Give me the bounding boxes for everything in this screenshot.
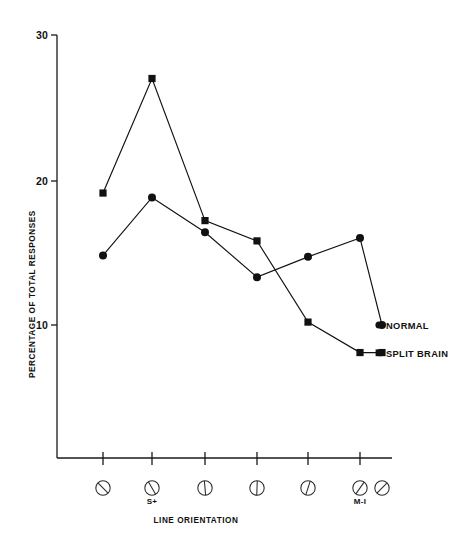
data-point — [356, 234, 364, 242]
circle-slash-120-icon — [145, 481, 159, 495]
chart-figure: 30 20 10 PERCENTAGE OF TOTAL RESPONSES L… — [0, 0, 462, 548]
legend-label-normal: NORMAL — [386, 321, 429, 331]
series-line-split-brain — [103, 79, 382, 353]
y-tick-label-20: 20 — [36, 175, 48, 187]
legend-group: NORMAL SPLIT BRAIN — [375, 321, 448, 359]
data-point — [201, 217, 208, 224]
series-markers-split-brain — [99, 75, 385, 356]
circle-slash-90-icon — [250, 481, 264, 495]
x-category-icons — [96, 481, 389, 495]
circle-slash-75-icon — [301, 481, 315, 495]
x-sublabel-m-i: M-I — [354, 497, 366, 506]
y-axis-title: PERCENTAGE OF TOTAL RESPONSES — [28, 210, 37, 378]
x-sublabel-s-plus: S+ — [147, 497, 158, 506]
data-point — [148, 75, 155, 82]
series-markers-normal — [99, 193, 386, 329]
circle-slash-45-icon — [375, 481, 389, 495]
circle-slash-95-icon — [198, 481, 212, 495]
data-point — [201, 228, 209, 236]
circle-slash-135-icon — [96, 481, 110, 495]
data-point — [99, 189, 106, 196]
legend-marker-split-brain — [376, 349, 383, 356]
x-axis-title: LINE ORIENTATION — [154, 516, 239, 525]
legend-label-split-brain: SPLIT BRAIN — [386, 349, 448, 359]
data-point — [253, 273, 261, 281]
data-point — [304, 319, 311, 326]
series-split-brain — [99, 75, 385, 356]
data-point — [253, 237, 260, 244]
data-point — [99, 251, 107, 259]
legend-marker-normal — [375, 321, 382, 328]
axes-group — [51, 35, 392, 465]
data-point — [356, 349, 363, 356]
series-line-normal — [103, 197, 382, 325]
series-normal — [99, 193, 386, 329]
data-point — [148, 193, 156, 201]
data-point — [304, 253, 312, 261]
y-tick-label-10: 10 — [36, 319, 48, 331]
y-tick-label-30: 30 — [36, 29, 48, 41]
circle-slash-55-icon — [353, 481, 367, 495]
line-chart-svg: 30 20 10 PERCENTAGE OF TOTAL RESPONSES L… — [0, 0, 462, 548]
